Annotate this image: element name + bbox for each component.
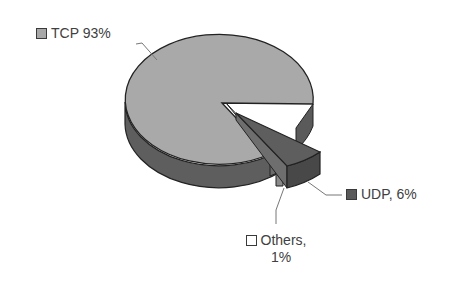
label-tcp: TCP 93% [36,25,111,42]
leader-udp [308,182,342,195]
pie-chart [0,0,465,286]
leader-others [276,188,284,224]
tcp-swatch [36,28,47,39]
label-udp: UDP, 6% [346,186,417,203]
udp-swatch [346,189,357,200]
label-others: Others, 1% [236,232,316,266]
others-percent: 1% [236,249,316,266]
others-swatch [246,235,257,246]
